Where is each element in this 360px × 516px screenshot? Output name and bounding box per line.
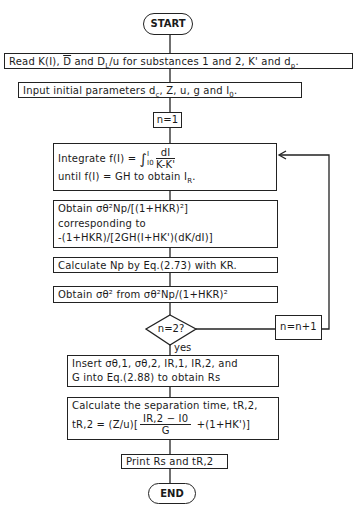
input-box: Input initial parameters dc, Z, u, g and…	[18, 82, 302, 98]
integrate-text: Integrate f(I) =	[58, 153, 140, 164]
integrand-fraction: dIK-K'	[156, 147, 175, 170]
input-text-c: .	[234, 85, 237, 96]
read-text-d: .	[295, 56, 298, 67]
decision-label: n=2?	[146, 322, 196, 336]
end-label: END	[160, 488, 184, 499]
print-box: Print Rs and tR,2	[121, 454, 228, 469]
start-label: START	[150, 18, 185, 29]
read-text-c: /u for substances 1 and 2, K' and d	[109, 56, 290, 67]
integrate-line2: until f(I) = GH to obtain IR.	[58, 170, 272, 184]
obtain1-line3: -(1+HKR)/[2GH(I+HK')(dK/dI)]	[58, 231, 273, 246]
init-n-label: n=1	[157, 114, 179, 125]
integrate-box: Integrate f(I) = ∫II0dIK-K' until f(I) =…	[53, 143, 277, 191]
end-terminal: END	[148, 483, 196, 504]
calculate-np-box: Calculate Np by Eq.(2.73) with KR.	[53, 257, 278, 273]
integral-symbol: ∫	[140, 151, 148, 167]
read-box: Read K(I), D and DL/u for substances 1 a…	[4, 53, 353, 69]
insert-line1: Insert σθ,1, σθ,2, IR,1, IR,2, and	[72, 357, 274, 371]
calc-np-label: Calculate Np by Eq.(2.73) with KR.	[58, 260, 237, 271]
init-n-box: n=1	[153, 112, 182, 128]
increment-n-box: n=n+1	[275, 315, 322, 340]
insert-line2: G into Eq.(2.88) to obtain Rs	[72, 371, 274, 385]
separation-time-box: Calculate the separation time, tR,2, tR,…	[67, 397, 279, 440]
integral-lower: I0	[147, 159, 154, 168]
integrand-den: K-K'	[156, 159, 175, 170]
input-text-a: Input initial parameters d	[23, 85, 155, 96]
integrate-line1: Integrate f(I) = ∫II0dIK-K'	[58, 147, 272, 170]
start-terminal: START	[143, 13, 193, 35]
obtain1-line1: Obtain σθ²Np/[(1+HKR)²]	[58, 202, 273, 217]
integrate-period: .	[192, 171, 195, 182]
integrand-num: dI	[156, 147, 175, 159]
separation-line1: Calculate the separation time, tR,2,	[72, 399, 274, 413]
yes-label: yes	[174, 342, 191, 353]
read-text-b: and	[71, 56, 97, 67]
read-dl: D	[97, 56, 105, 67]
separation-line2: tR,2 = (Z/u)[IR,2 − I0G +(1+HK')]	[72, 413, 274, 436]
separation-formula-a: tR,2 = (Z/u)[	[72, 419, 138, 430]
separation-num: IR,2 − I0	[140, 413, 191, 425]
integral-upper: I	[147, 150, 154, 159]
obtain-variance-box: Obtain σθ² from σθ²Np/(1+HKR)²	[53, 286, 278, 303]
integrate-until-text: until f(I) = GH to obtain I	[58, 171, 187, 182]
obtain1-line2: corresponding to	[58, 217, 273, 232]
increment-label: n=n+1	[280, 321, 317, 332]
separation-fraction: IR,2 − I0G	[140, 413, 191, 436]
separation-den: G	[140, 425, 191, 436]
obtain2-label: Obtain σθ² from σθ²Np/(1+HKR)²	[58, 289, 228, 300]
read-text-a: Read K(I),	[9, 56, 63, 67]
obtain-variance-ratio-box: Obtain σθ²Np/[(1+HKR)²] corresponding to…	[53, 200, 278, 248]
insert-box: Insert σθ,1, σθ,2, IR,1, IR,2, and G int…	[67, 355, 279, 387]
read-dbar: D	[63, 56, 71, 67]
input-text-b: , Z, u, g and I	[160, 85, 230, 96]
separation-formula-b: +(1+HK')]	[193, 419, 250, 430]
print-label: Print Rs and tR,2	[126, 456, 213, 467]
feedback-loop-line	[280, 155, 329, 329]
